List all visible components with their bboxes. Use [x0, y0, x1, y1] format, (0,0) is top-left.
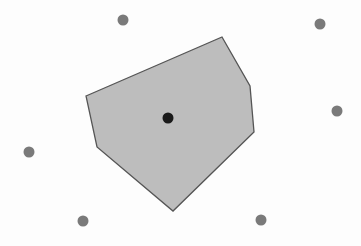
neighbor-point-2: [315, 19, 326, 30]
site-point: [163, 113, 174, 124]
diagram-canvas: [0, 0, 361, 246]
voronoi-diagram: [0, 0, 361, 246]
neighbor-point-6: [256, 215, 267, 226]
neighbor-point-3: [332, 106, 343, 117]
neighbor-point-4: [24, 147, 35, 158]
neighbor-point-1: [118, 15, 129, 26]
voronoi-cell: [86, 37, 254, 211]
neighbor-point-5: [78, 216, 89, 227]
